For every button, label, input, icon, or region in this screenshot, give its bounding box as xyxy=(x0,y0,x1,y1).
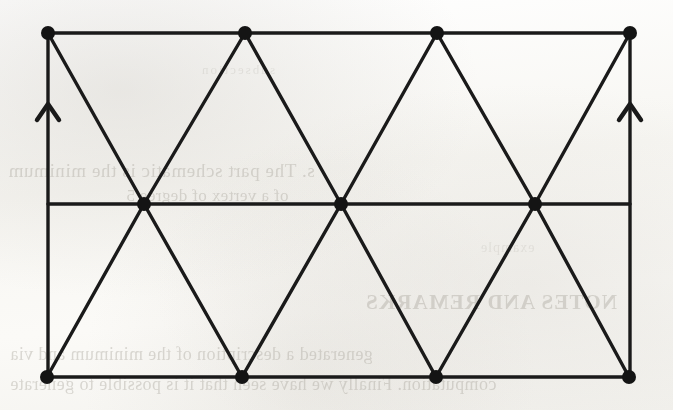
vertex-bottom-4 xyxy=(622,370,636,384)
figure-ink-layer xyxy=(37,26,641,384)
vertex-bottom-1 xyxy=(40,370,54,384)
vertex-bottom-2 xyxy=(235,370,249,384)
vertex-top-2 xyxy=(238,26,252,40)
vertex-top-4 xyxy=(623,26,637,40)
scanned-figure-page: s. The part schematic is the minimum of … xyxy=(0,0,673,410)
triangulation-figure xyxy=(0,0,673,410)
vertex-middle-3 xyxy=(528,197,542,211)
vertex-middle-2 xyxy=(334,197,348,211)
vertex-middle-1 xyxy=(137,197,151,211)
lower-zigzag xyxy=(47,204,629,377)
upper-zigzag xyxy=(48,33,630,204)
vertex-bottom-3 xyxy=(429,370,443,384)
vertex-top-1 xyxy=(41,26,55,40)
vertex-top-3 xyxy=(430,26,444,40)
